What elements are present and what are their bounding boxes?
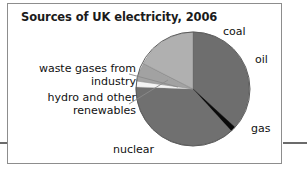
pie-label-oil: oil	[255, 54, 268, 67]
pie-label-gas: gas	[251, 123, 270, 136]
pie-label-waste-gases: waste gases from industry	[26, 63, 136, 88]
right-page-rule	[283, 142, 307, 144]
pie-label-coal: coal	[223, 26, 246, 39]
pie-label-nuclear: nuclear	[113, 144, 154, 157]
figure-frame: Sources of UK electricity, 2006 coal	[7, 3, 282, 164]
pie-label-hydro: hydro and other renewables	[16, 92, 136, 117]
